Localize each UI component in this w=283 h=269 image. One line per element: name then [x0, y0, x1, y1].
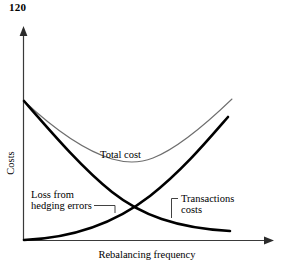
hedging-errors-leader-line: [94, 206, 115, 214]
y-axis-arrow-icon: [20, 26, 28, 36]
x-axis-arrow-icon: [264, 237, 274, 245]
annotation-hedging-errors-line2: hedging errors: [31, 200, 92, 211]
annotation-total-cost: Total cost: [100, 149, 141, 160]
y-axis-label: Costs: [5, 151, 16, 174]
annotation-hedging-errors-line1: Loss from: [31, 189, 74, 200]
annotation-transactions-costs-line1: Transactions: [181, 193, 234, 204]
annotation-transactions-costs-line2: costs: [181, 204, 202, 215]
cost-vs-rebalancing-frequency-chart: Costs Rebalancing frequency Total cost L…: [0, 0, 283, 269]
transactions-costs-leader-line: [172, 199, 179, 219]
x-axis-label: Rebalancing frequency: [98, 249, 196, 260]
